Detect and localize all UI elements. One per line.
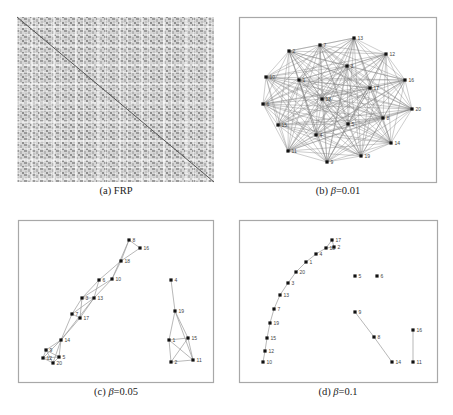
- node-label: 19: [179, 308, 185, 314]
- node-label: 12: [47, 355, 53, 361]
- node-label: 8: [387, 115, 390, 121]
- node-label: 8: [133, 237, 136, 243]
- node-label: 1: [310, 259, 313, 265]
- node-label: 12: [269, 348, 275, 354]
- node-label: 2: [338, 244, 341, 250]
- node-label: 1: [173, 337, 176, 343]
- node-label: 11: [292, 148, 297, 154]
- caption-c-prefix: (c): [94, 386, 108, 397]
- caption-a: (a) FRP: [16, 185, 216, 196]
- node-label: 9: [359, 309, 362, 315]
- node-label: 20: [57, 360, 63, 366]
- node-label: 9: [50, 347, 53, 353]
- node-label: 7: [76, 311, 79, 317]
- node-label: 14: [395, 140, 401, 146]
- node-label: 3: [292, 280, 295, 286]
- node-label: 3: [351, 63, 354, 69]
- caption-c-suffix: =0.05: [114, 386, 138, 397]
- node-label: 11: [417, 359, 422, 365]
- node-label: 10: [267, 359, 273, 365]
- node-label: 11: [197, 357, 202, 363]
- node-label: 10: [270, 74, 276, 80]
- node-label: 6: [381, 273, 384, 279]
- node-label: 14: [65, 337, 71, 343]
- node-label: 19: [365, 153, 371, 159]
- node-label: 17: [374, 85, 380, 91]
- figure-canvas: 1372123101161718620851541411199 81618610…: [0, 0, 453, 415]
- node-label: 16: [417, 327, 423, 333]
- node-label: 2: [293, 48, 296, 54]
- node-label: 1: [303, 77, 306, 83]
- node-label: 17: [84, 315, 90, 321]
- node-label: 20: [416, 106, 422, 112]
- caption-d: (d) β=0.1: [238, 386, 438, 397]
- node-label: 7: [324, 42, 327, 48]
- node-label: 13: [98, 295, 104, 301]
- node-label: 2: [175, 359, 178, 365]
- network-panel-beta-0-01: 1372123101161718620851541411199: [240, 18, 437, 183]
- node-label: 8: [378, 334, 381, 340]
- node-label: 18: [125, 258, 131, 264]
- node-label: 12: [390, 51, 396, 57]
- node-label: 5: [352, 121, 355, 127]
- caption-d-prefix: (d): [318, 386, 333, 397]
- caption-a-prefix: (a): [100, 185, 114, 196]
- node-label: 5: [63, 354, 66, 360]
- node-label: 16: [409, 77, 415, 83]
- node-label: 17: [336, 237, 342, 243]
- node-label: 13: [358, 35, 364, 41]
- caption-b-suffix: =0.01: [336, 185, 360, 196]
- node-label: 3: [86, 295, 89, 301]
- caption-b-prefix: (b): [316, 185, 331, 196]
- node-label: 4: [320, 251, 323, 257]
- frp-matrix-panel: [17, 17, 214, 182]
- node-label: 15: [271, 335, 277, 341]
- node-label: 15: [282, 122, 288, 128]
- node-label: 9: [331, 159, 334, 165]
- caption-c: (c) β=0.05: [16, 386, 216, 397]
- node-label: 5: [359, 273, 362, 279]
- node-label: 14: [396, 359, 402, 365]
- node-label: 6: [103, 277, 106, 283]
- node-label: 13: [284, 292, 290, 298]
- caption-a-main: FRP: [114, 185, 133, 196]
- caption-d-suffix: =0.1: [339, 386, 358, 397]
- caption-b: (b) β=0.01: [238, 185, 438, 196]
- node-label: 6: [267, 101, 270, 107]
- node-label: 19: [274, 320, 280, 326]
- network-panel-beta-0-05: 8161861031371714951220419115211: [19, 221, 214, 383]
- node-label: 20: [300, 269, 306, 275]
- node-label: 16: [144, 245, 150, 251]
- node-label: 10: [116, 276, 122, 282]
- node-label: 4: [320, 132, 323, 138]
- node-label: 7: [278, 306, 281, 312]
- node-label: 18: [326, 96, 332, 102]
- node-label: 15: [192, 335, 198, 341]
- node-label: 4: [175, 277, 178, 283]
- network-panel-beta-0-1: 1718241203137191512105698141611: [240, 221, 438, 383]
